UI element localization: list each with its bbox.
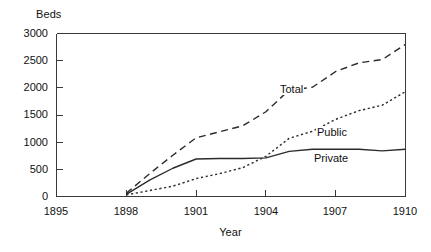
x-axis-title-text: Year bbox=[219, 226, 242, 238]
series-label-public: Public bbox=[316, 126, 348, 138]
x-tick-label-1895: 1895 bbox=[31, 205, 81, 217]
series-label-total: Total bbox=[279, 83, 304, 95]
series-label-private: Private bbox=[313, 152, 349, 164]
x-tick-label-1910: 1910 bbox=[380, 205, 430, 217]
y-tick-label-1500: 1500 bbox=[4, 108, 48, 120]
y-tick-label-3000: 3000 bbox=[4, 27, 48, 39]
y-tick-label-500: 500 bbox=[4, 163, 48, 175]
x-tick-label-1901: 1901 bbox=[171, 205, 221, 217]
y-tick-label-2500: 2500 bbox=[4, 54, 48, 66]
x-tick-label-1904: 1904 bbox=[241, 205, 291, 217]
y-tick-marks bbox=[57, 61, 63, 170]
chart-container: Beds 3000 2500 2000 1500 1000 500 0 1895 bbox=[0, 0, 431, 252]
x-axis-title: Year bbox=[0, 226, 431, 238]
y-tick-label-1000: 1000 bbox=[4, 136, 48, 148]
x-tick-marks bbox=[126, 190, 335, 197]
y-tick-label-0: 0 bbox=[4, 190, 48, 202]
x-tick-label-1898: 1898 bbox=[101, 205, 151, 217]
series-line-public bbox=[126, 92, 405, 195]
x-tick-label-1907: 1907 bbox=[310, 205, 360, 217]
axis-frame bbox=[57, 34, 406, 197]
y-tick-label-2000: 2000 bbox=[4, 81, 48, 93]
